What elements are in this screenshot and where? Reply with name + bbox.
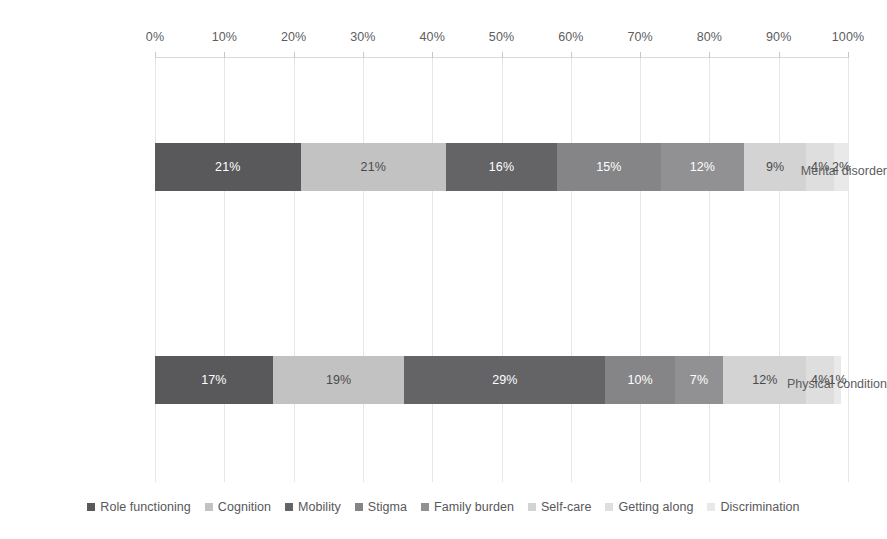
gridline: [848, 58, 849, 482]
legend-item[interactable]: Mobility: [285, 500, 341, 514]
legend-item[interactable]: Cognition: [205, 500, 271, 514]
gridline: [224, 58, 225, 482]
legend-item[interactable]: Discrimination: [707, 500, 799, 514]
legend-label: Cognition: [218, 500, 271, 514]
legend-label: Getting along: [618, 500, 693, 514]
legend-label: Stigma: [368, 500, 407, 514]
bar-segment[interactable]: 12%: [661, 143, 744, 191]
bar-segment[interactable]: 29%: [404, 356, 605, 404]
legend-label: Self-care: [541, 500, 591, 514]
chart-legend: Role functioningCognitionMobilityStigmaF…: [0, 500, 887, 514]
category-label: Physical condition: [742, 377, 887, 391]
x-axis-tick-label: 20%: [281, 30, 306, 44]
gridline: [571, 58, 572, 482]
legend-swatch-icon: [707, 503, 715, 511]
legend-label: Family burden: [434, 500, 514, 514]
legend-item[interactable]: Self-care: [528, 500, 591, 514]
bar-segment-value-label: 17%: [201, 374, 226, 387]
category-label: Mental disorder: [742, 164, 887, 178]
legend-label: Role functioning: [100, 500, 190, 514]
x-axis-tick-label: 70%: [627, 30, 652, 44]
x-axis-tick-label: 40%: [420, 30, 445, 44]
bar-segment[interactable]: 10%: [605, 356, 674, 404]
legend-item[interactable]: Role functioning: [87, 500, 190, 514]
bar-segment[interactable]: 17%: [155, 356, 273, 404]
x-axis-tick-label: 10%: [212, 30, 237, 44]
legend-item[interactable]: Family burden: [421, 500, 514, 514]
bar-segment-value-label: 21%: [215, 161, 240, 174]
x-axis-tick-label: 100%: [832, 30, 864, 44]
legend-swatch-icon: [355, 503, 363, 511]
x-axis-tick-label: 60%: [558, 30, 583, 44]
bar-segment[interactable]: 21%: [301, 143, 447, 191]
legend-swatch-icon: [528, 503, 536, 511]
bar-segment[interactable]: 7%: [675, 356, 724, 404]
x-axis-tick-label: 30%: [350, 30, 375, 44]
gridline: [432, 58, 433, 482]
legend-item[interactable]: Getting along: [605, 500, 693, 514]
gridline: [640, 58, 641, 482]
bar-segment-value-label: 19%: [326, 374, 351, 387]
stacked-bar-chart: 0%10%20%30%40%50%60%70%80%90%100% 21%21%…: [0, 0, 887, 539]
bar-segment[interactable]: 21%: [155, 143, 301, 191]
gridline: [155, 58, 156, 482]
bar-segment-value-label: 7%: [690, 374, 708, 387]
gridline: [294, 58, 295, 482]
x-axis-tick-labels: 0%10%20%30%40%50%60%70%80%90%100%: [155, 30, 848, 48]
legend-swatch-icon: [605, 503, 613, 511]
bar-segment-value-label: 21%: [361, 161, 386, 174]
legend-swatch-icon: [205, 503, 213, 511]
bar-segment-value-label: 15%: [596, 161, 621, 174]
x-axis-tick-label: 90%: [766, 30, 791, 44]
legend-label: Mobility: [298, 500, 341, 514]
legend-swatch-icon: [87, 503, 95, 511]
gridline: [779, 58, 780, 482]
bar-segment-value-label: 29%: [492, 374, 517, 387]
bar-segment[interactable]: 16%: [446, 143, 557, 191]
x-axis-tick-label: 80%: [697, 30, 722, 44]
legend-swatch-icon: [421, 503, 429, 511]
legend-item[interactable]: Stigma: [355, 500, 407, 514]
legend-swatch-icon: [285, 503, 293, 511]
bar-segment-value-label: 12%: [690, 161, 715, 174]
bar-segment[interactable]: 15%: [557, 143, 661, 191]
plot-area: 21%21%16%15%12%9%4%2%17%19%29%10%7%12%4%…: [155, 58, 848, 482]
gridline: [363, 58, 364, 482]
x-axis-tick-label: 50%: [489, 30, 514, 44]
gridline: [709, 58, 710, 482]
gridline: [502, 58, 503, 482]
bar-segment-value-label: 16%: [489, 161, 514, 174]
x-axis-tick-label: 0%: [146, 30, 164, 44]
legend-label: Discrimination: [720, 500, 799, 514]
bar-segment-value-label: 10%: [627, 374, 652, 387]
bar-segment[interactable]: 19%: [273, 356, 405, 404]
